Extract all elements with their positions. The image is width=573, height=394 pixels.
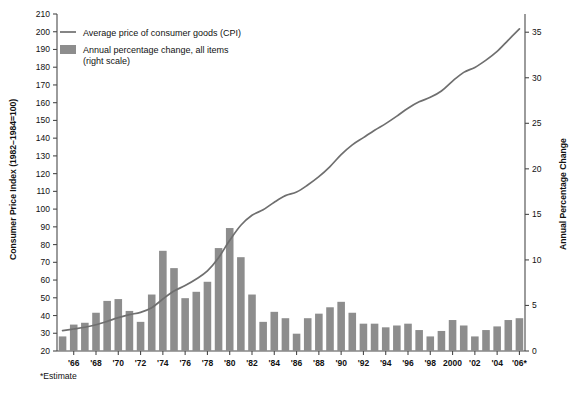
bar	[460, 325, 468, 351]
left-tick-label: 160	[36, 98, 50, 108]
bar	[114, 299, 122, 351]
chart-container: Consumer Price Index (1982–1984=100) Ann…	[0, 0, 573, 394]
x-tick-label: '04	[491, 358, 503, 368]
bar	[449, 320, 457, 351]
x-tick-label: '76	[179, 358, 191, 368]
x-tick-label: '68	[90, 358, 102, 368]
bar	[304, 318, 312, 351]
legend-label-annual-change: Annual percentage change, all items	[83, 45, 229, 55]
x-tick-label: '88	[313, 358, 325, 368]
bar	[426, 336, 434, 351]
right-tick-label: 10	[532, 255, 542, 265]
right-axis-title: Annual Percentage Change	[558, 138, 568, 250]
right-tick-label: 30	[532, 73, 542, 83]
legend-label-cpi: Average price of consumer goods (CPI)	[83, 28, 241, 38]
bar	[516, 318, 524, 351]
bar	[215, 248, 223, 351]
bar	[482, 330, 490, 351]
x-tick-label: '94	[380, 358, 392, 368]
x-tick-label: '66	[68, 358, 80, 368]
bar	[270, 312, 278, 351]
legend-swatch-marker	[60, 45, 76, 54]
left-tick-label: 30	[41, 328, 51, 338]
x-tick-label: '72	[135, 358, 147, 368]
bar	[371, 324, 379, 351]
right-tick-label: 5	[532, 300, 537, 310]
left-tick-label: 100	[36, 204, 50, 214]
x-tick-label: '02	[469, 358, 481, 368]
bar	[282, 318, 290, 351]
bar	[192, 292, 200, 351]
bar	[360, 324, 368, 351]
bar	[315, 314, 323, 351]
left-tick-label: 70	[41, 257, 51, 267]
x-tick-label: '78	[202, 358, 214, 368]
right-tick-label: 20	[532, 164, 542, 174]
bar	[92, 313, 100, 351]
bar	[103, 301, 111, 351]
bar	[404, 324, 412, 351]
left-tick-label: 140	[36, 133, 50, 143]
bar	[493, 326, 501, 351]
bar	[293, 334, 301, 351]
bar	[204, 282, 212, 351]
x-tick-label: '84	[269, 358, 281, 368]
bar	[226, 228, 234, 351]
left-axis-title: Consumer Price Index (1982–1984=100)	[8, 99, 18, 260]
left-tick-label: 130	[36, 151, 50, 161]
bar	[348, 313, 356, 351]
bar	[326, 307, 334, 351]
bar	[471, 336, 479, 351]
bar	[248, 295, 256, 351]
bar	[337, 302, 345, 351]
bar	[259, 322, 267, 351]
x-tick-label: 2000	[443, 358, 462, 368]
bar	[393, 325, 401, 351]
bar	[59, 336, 67, 351]
right-tick-label: 15	[532, 209, 542, 219]
footnote-estimate: *Estimate	[40, 371, 77, 381]
bar	[237, 257, 245, 351]
bar	[382, 327, 390, 351]
x-tick-label: '96	[402, 358, 414, 368]
legend-label-annual-change-sub: (right scale)	[83, 56, 130, 66]
left-tick-label: 50	[41, 293, 51, 303]
x-tick-label: '90	[335, 358, 347, 368]
left-tick-label: 210	[36, 9, 50, 19]
bar	[170, 268, 178, 351]
left-tick-label: 190	[36, 44, 50, 54]
x-tick-label: '74	[157, 358, 169, 368]
left-tick-label: 110	[36, 186, 50, 196]
left-tick-label: 80	[41, 240, 51, 250]
left-tick-label: 170	[36, 80, 50, 90]
left-tick-label: 40	[41, 311, 51, 321]
right-tick-label: 25	[532, 118, 542, 128]
bar	[438, 331, 446, 351]
bar	[504, 320, 512, 351]
left-tick-label: 150	[36, 115, 50, 125]
left-tick-label: 90	[41, 222, 51, 232]
left-tick-label: 120	[36, 169, 50, 179]
bar	[137, 322, 145, 351]
x-tick-label: '06*	[512, 358, 527, 368]
left-tick-label: 60	[41, 275, 51, 285]
x-tick-label: '86	[291, 358, 303, 368]
left-tick-label: 20	[41, 346, 51, 356]
bar	[126, 311, 134, 351]
bar	[148, 295, 156, 351]
x-tick-label: '70	[113, 358, 125, 368]
bar	[181, 298, 189, 351]
x-tick-label: '82	[246, 358, 258, 368]
right-tick-label: 35	[532, 27, 542, 37]
bar	[415, 330, 423, 351]
left-tick-label: 200	[36, 27, 50, 37]
cpi-chart: Consumer Price Index (1982–1984=100) Ann…	[0, 0, 573, 394]
left-tick-label: 180	[36, 62, 50, 72]
x-tick-label: '80	[224, 358, 236, 368]
right-tick-label: 0	[532, 346, 537, 356]
x-tick-label: '92	[358, 358, 370, 368]
x-tick-label: '98	[425, 358, 437, 368]
